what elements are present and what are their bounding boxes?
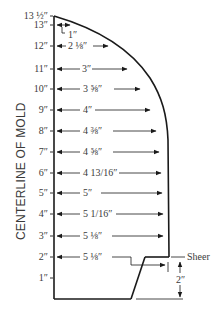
width-label: 3 ⅝″ — [83, 83, 102, 94]
sheer-callout: Sheer 2″ — [136, 251, 210, 299]
height-label: 13″ — [34, 19, 48, 30]
width-label: 5 1/16″ — [83, 208, 112, 219]
height-label: 5″ — [39, 187, 48, 198]
sheer-label: Sheer — [187, 251, 210, 262]
centerline-label: CENTERLINE OF MOLD — [14, 102, 28, 240]
width-arrows — [57, 25, 168, 272]
height-label: 2″ — [39, 251, 48, 262]
height-label: 1″ — [39, 272, 48, 283]
height-label: 9″ — [39, 104, 48, 115]
width-label: 2 ⅛″ — [68, 40, 87, 51]
width-label: 4 ⅝″ — [83, 146, 102, 157]
height-label: 12″ — [34, 40, 48, 51]
height-label: 10″ — [34, 83, 48, 94]
width-labels: 1″ 2 ⅛″ 3″ 3 ⅝″ 4″ 4 ⅜″ 4 ⅝″ 4 13/16″ 5″… — [68, 29, 117, 262]
width-label: 5″ — [83, 187, 92, 198]
sheer-height-label: 2″ — [176, 274, 185, 285]
width-label: 1″ — [68, 29, 77, 40]
mold-diagram: CENTERLINE OF MOLD 13 ½″ 13″ 12″ 11″ 10″… — [0, 0, 221, 311]
profile-curve — [54, 16, 169, 257]
height-label: 7″ — [39, 146, 48, 157]
width-label: 4 13/16″ — [83, 167, 117, 178]
width-label: 3″ — [82, 63, 91, 74]
mold-outline — [54, 16, 169, 299]
height-label: 11″ — [34, 63, 48, 74]
tick-marks — [50, 16, 53, 278]
height-label: 6″ — [39, 167, 48, 178]
width-label: 5 ⅛″ — [83, 251, 102, 262]
width-label: 4 ⅜″ — [83, 125, 102, 136]
height-label: 3″ — [39, 230, 48, 241]
slanted-edge — [131, 257, 145, 299]
width-label: 4″ — [83, 104, 92, 115]
height-label: 4″ — [39, 208, 48, 219]
width-label: 5 ⅛″ — [83, 230, 102, 241]
height-label: 8″ — [39, 125, 48, 136]
